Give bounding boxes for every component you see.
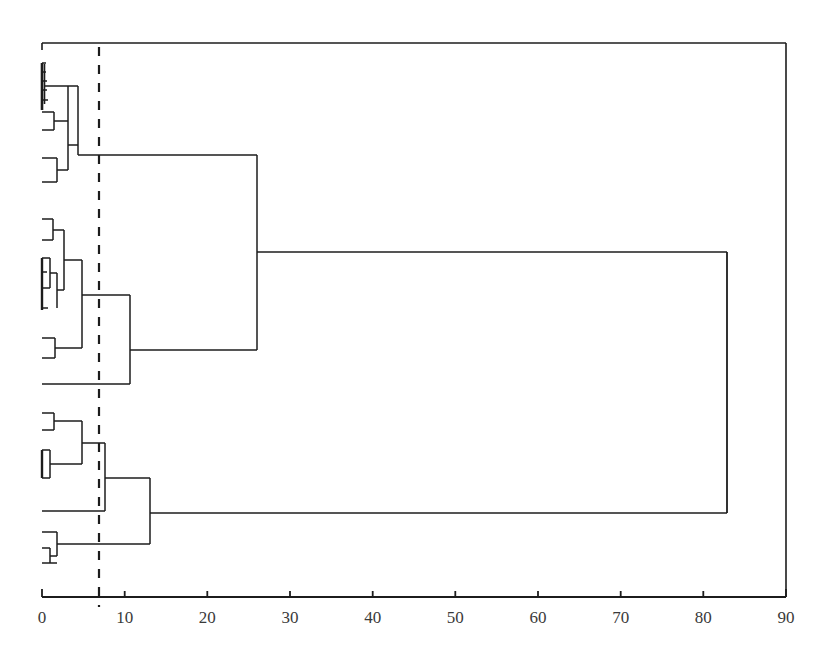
tick-label-60: 60 — [530, 608, 547, 627]
cluster-a — [42, 63, 257, 182]
tick-label-30: 30 — [282, 608, 299, 627]
cluster-b — [42, 219, 257, 384]
tick-label-0: 0 — [38, 608, 47, 627]
tick-label-20: 20 — [199, 608, 216, 627]
tick-label-90: 90 — [778, 608, 795, 627]
tick-label-50: 50 — [447, 608, 464, 627]
dendrogram-tree — [42, 63, 727, 563]
plot-frame — [42, 43, 786, 597]
merge-m17 — [257, 155, 727, 350]
dendrogram-figure: 0 10 20 30 40 50 60 70 80 90 — [0, 0, 826, 664]
dendrogram-canvas: 0 10 20 30 40 50 60 70 80 90 — [0, 0, 826, 664]
cluster-c — [42, 413, 727, 563]
tick-label-40: 40 — [364, 608, 381, 627]
tick-label-10: 10 — [116, 608, 133, 627]
distance-axis — [42, 589, 786, 597]
tick-label-80: 80 — [695, 608, 712, 627]
tick-label-70: 70 — [612, 608, 629, 627]
axis-tick-labels: 0 10 20 30 40 50 60 70 80 90 — [38, 608, 795, 627]
